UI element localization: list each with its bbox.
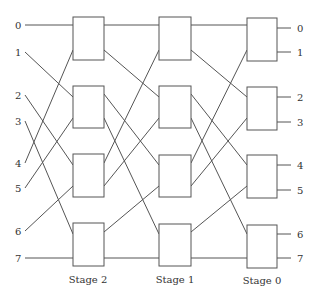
- stage2-switch-4: [73, 223, 104, 266]
- input-wires: [25, 25, 73, 258]
- output-label-5: 5: [297, 185, 303, 196]
- stage-1-label: Stage 1: [156, 274, 195, 285]
- interconnection-network-diagram: 0 1 2 3 4 5 6 7: [0, 0, 319, 301]
- stage-0-label: Stage 0: [243, 275, 282, 286]
- stage2-switch-3: [73, 154, 104, 197]
- stage1-switch-3: [159, 155, 191, 197]
- stage-labels: Stage 2 Stage 1 Stage 0: [69, 274, 282, 286]
- input-labels: 0 1 2 3 4 5 6 7: [15, 20, 21, 264]
- stage2-switch-2: [73, 86, 104, 128]
- output-label-6: 6: [297, 229, 303, 240]
- stage0-switch-1: [247, 18, 277, 61]
- output-label-4: 4: [297, 160, 303, 171]
- stage0-switch-4: [247, 225, 277, 268]
- output-wires: [277, 28, 291, 258]
- stage1-switch-1: [159, 17, 191, 60]
- stage1-to-stage0-wires: [191, 25, 247, 258]
- stage0-switch-3: [247, 155, 277, 198]
- input-label-3: 3: [15, 116, 21, 127]
- output-label-0: 0: [297, 23, 303, 34]
- stage2-switch-1: [73, 17, 104, 60]
- stage-1-switches: [159, 17, 191, 266]
- stage1-switch-2: [159, 86, 191, 128]
- input-label-0: 0: [15, 20, 21, 31]
- stage-2-label: Stage 2: [69, 274, 108, 285]
- stage2-to-stage1-wires: [104, 25, 159, 258]
- input-label-2: 2: [15, 90, 21, 101]
- stage1-switch-4: [159, 224, 191, 266]
- stage0-switch-2: [247, 87, 277, 130]
- input-label-7: 7: [15, 253, 21, 264]
- input-label-4: 4: [15, 158, 21, 169]
- output-label-2: 2: [297, 92, 303, 103]
- output-label-1: 1: [297, 47, 303, 58]
- input-label-6: 6: [15, 226, 21, 237]
- stage-0-switches: [247, 18, 277, 268]
- input-label-1: 1: [15, 47, 21, 58]
- output-label-3: 3: [297, 117, 303, 128]
- output-labels: 0 1 2 3 4 5 6 7: [297, 23, 303, 264]
- input-label-5: 5: [15, 183, 21, 194]
- stage-2-switches: [73, 17, 104, 266]
- output-label-7: 7: [297, 253, 303, 264]
